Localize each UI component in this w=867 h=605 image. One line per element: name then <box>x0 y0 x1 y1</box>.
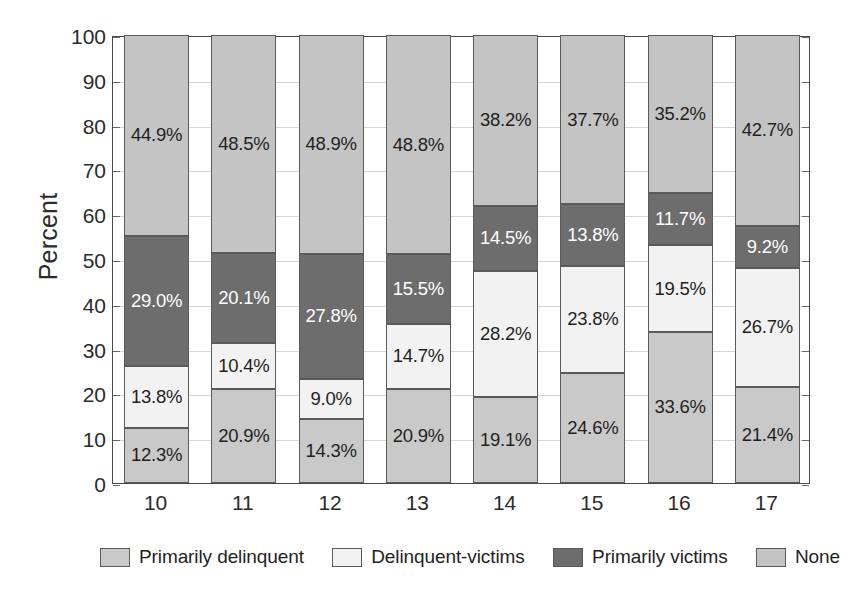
bar-segment[interactable]: 44.9% <box>124 35 189 236</box>
y-axis-tick-label: 20 <box>56 384 106 405</box>
stacked-bar-chart: Percent 0102030405060708090100 12.3%13.8… <box>0 0 867 605</box>
bar-segment-value-label: 12.3% <box>131 446 182 465</box>
legend-label: Primarily victims <box>592 546 728 568</box>
bar-segment-value-label: 20.9% <box>218 427 269 446</box>
bar-segment[interactable]: 10.4% <box>211 343 276 390</box>
bar-segment[interactable]: 21.4% <box>735 387 800 483</box>
bar-segment[interactable]: 9.2% <box>735 226 800 267</box>
bar-segment-value-label: 26.7% <box>742 318 793 337</box>
x-axis-tick-label: 14 <box>493 492 516 513</box>
bar-segment[interactable]: 11.7% <box>648 193 713 245</box>
bar-segment-value-label: 14.3% <box>305 442 356 461</box>
bar-segment[interactable]: 48.9% <box>299 35 364 254</box>
bar-segment[interactable]: 48.8% <box>386 35 451 254</box>
y-axis-tick-label: 70 <box>56 160 106 181</box>
x-axis-tick-labels: 1011121314151617 <box>112 492 810 522</box>
bar-segment[interactable]: 23.8% <box>560 266 625 373</box>
bar-segment[interactable]: 37.7% <box>560 35 625 204</box>
bar-segment-value-label: 35.2% <box>654 105 705 124</box>
legend-swatch <box>100 548 130 567</box>
bar-segment[interactable]: 14.7% <box>386 324 451 390</box>
x-axis-tick-label: 16 <box>667 492 690 513</box>
bars-layer: 12.3%13.8%29.0%44.9%20.9%10.4%20.1%48.5%… <box>113 37 809 483</box>
bar-column[interactable]: 19.1%28.2%14.5%38.2% <box>473 37 538 483</box>
bar-segment[interactable]: 9.0% <box>299 379 364 419</box>
bar-segment-value-label: 38.2% <box>480 111 531 130</box>
bar-segment[interactable]: 48.5% <box>211 35 276 252</box>
bar-segment[interactable]: 13.8% <box>124 366 189 428</box>
y-axis-tick-label: 40 <box>56 294 106 315</box>
bar-segment-value-label: 19.5% <box>654 280 705 299</box>
axis-tick-mark <box>802 485 809 486</box>
bar-segment[interactable]: 42.7% <box>735 35 800 226</box>
bar-segment[interactable]: 12.3% <box>124 428 189 483</box>
y-axis-tick-label: 90 <box>56 70 106 91</box>
bar-segment[interactable]: 14.5% <box>473 206 538 271</box>
bar-segment-value-label: 15.5% <box>393 280 444 299</box>
bar-segment[interactable]: 27.8% <box>299 254 364 379</box>
x-axis-tick-label: 15 <box>580 492 603 513</box>
bar-segment-value-label: 11.7% <box>655 210 705 229</box>
bar-segment[interactable]: 19.1% <box>473 397 538 483</box>
bar-segment[interactable]: 35.2% <box>648 35 713 193</box>
bar-segment[interactable]: 14.3% <box>299 419 364 483</box>
bar-column[interactable]: 21.4%26.7%9.2%42.7% <box>735 37 800 483</box>
legend-label: Primarily delinquent <box>139 546 304 568</box>
x-axis-tick-label: 10 <box>144 492 167 513</box>
legend-label: Delinquent-victims <box>371 546 524 568</box>
legend-item[interactable]: Primarily delinquent <box>100 546 304 568</box>
legend-swatch <box>553 548 583 567</box>
y-axis-tick-label: 50 <box>56 250 106 271</box>
bar-segment[interactable]: 13.8% <box>560 204 625 266</box>
bar-segment[interactable]: 20.9% <box>211 389 276 483</box>
bar-column[interactable]: 14.3%9.0%27.8%48.9% <box>299 37 364 483</box>
bar-segment-value-label: 28.2% <box>480 325 531 344</box>
y-axis-tick-label: 0 <box>56 474 106 495</box>
bar-segment-value-label: 33.6% <box>654 398 705 417</box>
bar-column[interactable]: 24.6%23.8%13.8%37.7% <box>560 37 625 483</box>
chart-legend: Primarily delinquentDelinquent-victimsPr… <box>100 540 840 574</box>
bar-segment-value-label: 24.6% <box>567 419 618 438</box>
bar-segment-value-label: 9.2% <box>747 238 788 257</box>
bar-column[interactable]: 20.9%14.7%15.5%48.8% <box>386 37 451 483</box>
legend-label: None <box>795 546 840 568</box>
legend-item[interactable]: Delinquent-victims <box>332 546 524 568</box>
legend-swatch <box>756 548 786 567</box>
bar-segment[interactable]: 28.2% <box>473 271 538 397</box>
bar-segment-value-label: 13.8% <box>567 226 618 245</box>
y-axis-tick-label: 30 <box>56 339 106 360</box>
bar-segment[interactable]: 15.5% <box>386 254 451 323</box>
bar-segment-value-label: 48.9% <box>305 135 356 154</box>
y-axis-tick-label: 10 <box>56 429 106 450</box>
bar-segment-value-label: 19.1% <box>480 431 531 450</box>
y-axis-tick-labels: 0102030405060708090100 <box>56 36 106 484</box>
bar-column[interactable]: 33.6%19.5%11.7%35.2% <box>648 37 713 483</box>
x-axis-tick-label: 13 <box>406 492 429 513</box>
legend-item[interactable]: None <box>756 546 840 568</box>
bar-segment[interactable]: 29.0% <box>124 236 189 366</box>
legend-swatch <box>332 548 362 567</box>
bar-segment-value-label: 13.8% <box>131 388 182 407</box>
plot-area: 12.3%13.8%29.0%44.9%20.9%10.4%20.1%48.5%… <box>112 36 810 484</box>
bar-segment[interactable]: 20.9% <box>386 389 451 483</box>
bar-segment-value-label: 48.8% <box>393 136 444 155</box>
bar-segment[interactable]: 33.6% <box>648 332 713 483</box>
x-axis-tick-label: 12 <box>318 492 341 513</box>
bar-segment-value-label: 21.4% <box>742 426 793 445</box>
bar-segment-value-label: 29.0% <box>131 292 182 311</box>
bar-segment[interactable]: 38.2% <box>473 35 538 206</box>
bar-segment-value-label: 37.7% <box>567 111 618 130</box>
bar-segment-value-label: 27.8% <box>305 307 356 326</box>
bar-segment[interactable]: 19.5% <box>648 245 713 332</box>
legend-item[interactable]: Primarily victims <box>553 546 728 568</box>
axis-tick-mark <box>113 485 120 486</box>
bar-segment[interactable]: 20.1% <box>211 253 276 343</box>
bar-segment-value-label: 14.5% <box>480 229 531 248</box>
bar-segment[interactable]: 26.7% <box>735 268 800 388</box>
bar-segment[interactable]: 24.6% <box>560 373 625 483</box>
bar-column[interactable]: 20.9%10.4%20.1%48.5% <box>211 37 276 483</box>
bar-segment-value-label: 9.0% <box>310 390 351 409</box>
bar-column[interactable]: 12.3%13.8%29.0%44.9% <box>124 37 189 483</box>
x-axis-tick-label: 17 <box>755 492 778 513</box>
bar-segment-value-label: 20.9% <box>393 427 444 446</box>
